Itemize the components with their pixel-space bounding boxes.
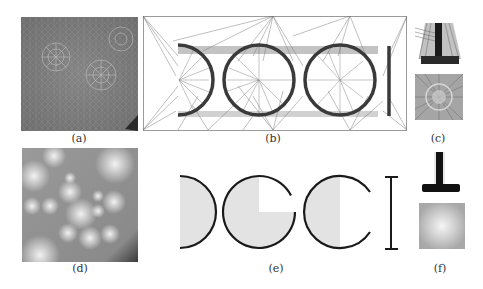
panel-a-label: (a) xyxy=(71,132,86,145)
panel-b-image xyxy=(143,16,407,131)
panel-c-label: (c) xyxy=(431,132,446,145)
panel-f-bottom-image xyxy=(419,203,465,249)
panel-d-image xyxy=(22,148,138,262)
panel-e-image xyxy=(176,172,404,254)
soft-blob-image xyxy=(419,203,465,249)
t-junction-mesh-image xyxy=(415,23,463,69)
panel-f-label: (f) xyxy=(434,262,447,275)
panel-c-bottom-image xyxy=(415,74,463,120)
panel-d-label: (d) xyxy=(72,262,88,275)
vector-letters-image xyxy=(176,172,404,254)
panel-b-label: (b) xyxy=(265,132,281,145)
panel-c-top-image xyxy=(415,23,463,69)
t-junction-image xyxy=(421,152,461,196)
panel-f-top-image xyxy=(421,152,461,196)
panel-a-image xyxy=(21,17,138,131)
panel-e-label: (e) xyxy=(268,262,283,275)
blob-field-image xyxy=(22,148,138,262)
mesh-texture-image xyxy=(21,17,138,131)
wireframe-letters-image xyxy=(143,16,407,131)
radial-cluster-mesh-image xyxy=(415,74,463,120)
